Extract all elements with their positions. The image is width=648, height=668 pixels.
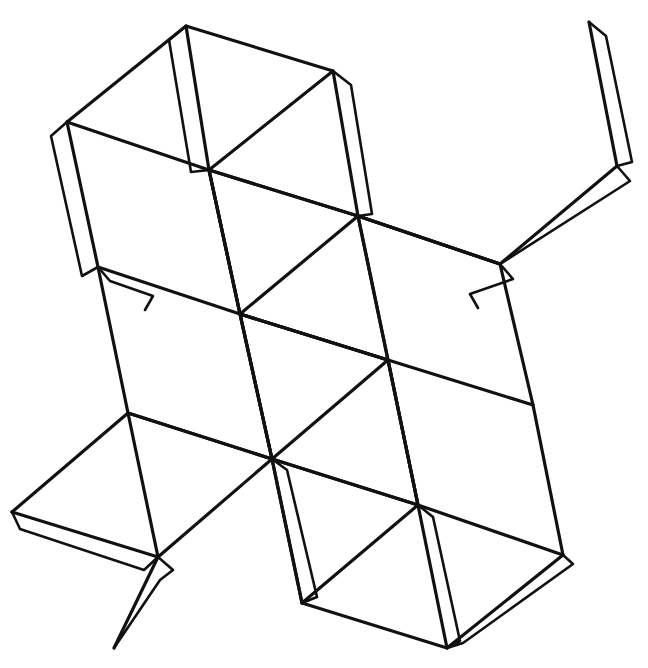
polyhedron-net-drawing: [0, 0, 648, 668]
canvas-background: [0, 0, 648, 668]
